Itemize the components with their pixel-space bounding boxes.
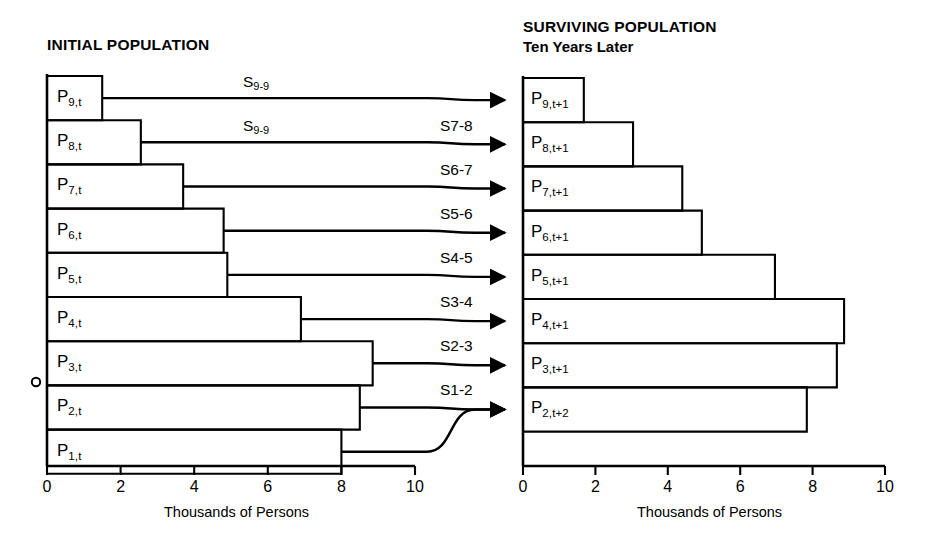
left-axis-tick-0: 0 xyxy=(34,478,60,496)
left-axis-tick-10: 10 xyxy=(402,478,428,496)
right-bar-label-6-t-1: P6,t+1 xyxy=(531,223,569,244)
right-bar-label-7-t-1: P7,t+1 xyxy=(531,178,569,199)
right-bar-label-8-t-1: P8,t+1 xyxy=(531,134,569,155)
right-axis-tick-10: 10 xyxy=(872,478,898,496)
flow-label-4: S5-6 xyxy=(440,206,473,222)
right-axis-tick-4: 4 xyxy=(655,478,681,496)
figure-canvas: INITIAL POPULATION SURVIVING POPULATION … xyxy=(0,0,925,536)
left-bar-label-7-t: P7,t xyxy=(57,176,81,197)
left-bar-label-1-t: P1,t xyxy=(57,442,81,463)
right-bar-label-9-t-1: P9,t+1 xyxy=(531,90,569,111)
flow-label-1: S9-9 xyxy=(243,118,269,136)
flow-label-3: S6-7 xyxy=(440,162,473,178)
flow-label-5: S4-5 xyxy=(440,250,473,266)
left-axis-tick-4: 4 xyxy=(181,478,207,496)
left-bar-label-3-t: P3,t xyxy=(57,353,81,374)
left-bar-label-4-t: P4,t xyxy=(57,309,81,330)
left-axis-caption: Thousands of Persons xyxy=(164,504,309,520)
right-axis-tick-0: 0 xyxy=(510,478,536,496)
flow-label-8: S1-2 xyxy=(440,382,473,398)
right-axis-tick-6: 6 xyxy=(727,478,753,496)
left-bar-label-6-t: P6,t xyxy=(57,221,81,242)
flow-label-0: S9-9 xyxy=(243,74,269,92)
right-bar-label-5-t-1: P5,t+1 xyxy=(531,267,569,288)
left-bar-label-9-t: P9,t xyxy=(57,88,81,109)
right-axis-tick-8: 8 xyxy=(800,478,826,496)
diagram-vector-layer xyxy=(0,0,925,536)
right-axis-caption: Thousands of Persons xyxy=(637,504,782,520)
right-bar-label-2-t-2: P2,t+2 xyxy=(531,399,569,420)
left-axis-tick-6: 6 xyxy=(255,478,281,496)
left-bar-label-2-t: P2,t xyxy=(57,397,81,418)
flow-label-7: S2-3 xyxy=(440,338,473,354)
left-bar-label-8-t: P8,t xyxy=(57,132,81,153)
right-axis-tick-2: 2 xyxy=(582,478,608,496)
left-axis-tick-2: 2 xyxy=(108,478,134,496)
right-bar-label-4-t-1: P4,t+1 xyxy=(531,311,569,332)
left-bar-label-5-t: P5,t xyxy=(57,265,81,286)
right-bar-label-3-t-1: P3,t+1 xyxy=(531,355,569,376)
flow-label-2: S7-8 xyxy=(440,118,473,134)
flow-label-6: S3-4 xyxy=(440,294,473,310)
left-axis-tick-8: 8 xyxy=(328,478,354,496)
